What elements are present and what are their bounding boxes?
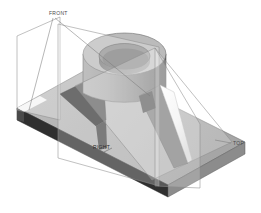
cutting-plane-right-sheet <box>155 48 200 188</box>
isometric-model-svg <box>0 0 261 213</box>
cutting-plane-right-fill <box>155 48 200 188</box>
cutting-plane-label-top: TOP <box>233 141 244 146</box>
cutting-plane-label-side: RIGHT <box>93 145 110 150</box>
cutting-plane-frontal <box>17 17 60 120</box>
cutting-plane-frontal-fill <box>17 17 60 120</box>
cad-viewport: FRONT TOP RIGHT <box>0 0 261 213</box>
cutting-plane-label-front: FRONT <box>49 11 68 16</box>
